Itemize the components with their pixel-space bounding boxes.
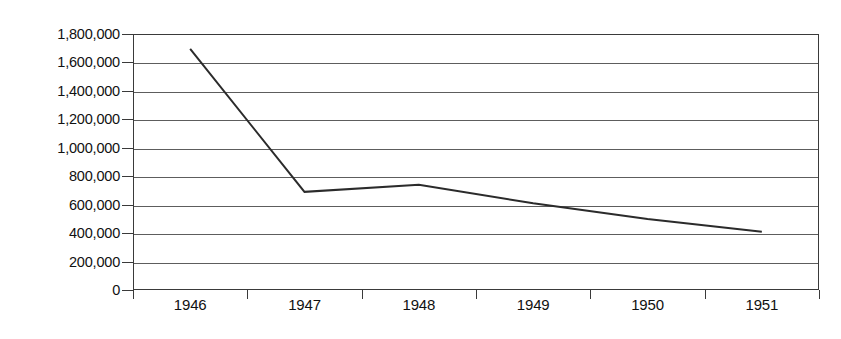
y-axis-tick-label: 600,000 [0,197,120,213]
gridline-horizontal [134,63,818,64]
y-axis-tick-label: 1,000,000 [0,140,120,156]
y-axis-tick-mark [122,176,133,177]
y-axis-tick-label: 1,600,000 [0,54,120,70]
y-axis-tick-label: 400,000 [0,225,120,241]
y-axis-tick-mark [122,290,133,291]
y-axis-tick-mark [122,148,133,149]
gridline-horizontal [134,206,818,207]
y-axis-tick-mark [122,233,133,234]
gridline-horizontal [134,263,818,264]
y-axis-tick-mark [122,205,133,206]
x-axis-tick-mark [362,290,363,299]
x-axis-tick-mark [819,290,820,299]
x-axis-tick-label: 1947 [288,296,321,313]
x-axis-tick-mark [247,290,248,299]
y-axis-tick-label: 200,000 [0,254,120,270]
y-axis-tick-label-group: 0200,000400,000600,000800,0001,000,0001,… [0,0,120,339]
line-chart: 0200,000400,000600,000800,0001,000,0001,… [0,0,841,339]
y-axis-tick-mark [122,91,133,92]
x-axis-tick-mark [476,290,477,299]
y-axis-tick-mark [122,119,133,120]
gridline-horizontal [134,177,818,178]
y-axis-tick-label: 1,400,000 [0,83,120,99]
x-axis-tick-label: 1951 [746,296,779,313]
gridline-horizontal [134,234,818,235]
x-axis-tick-label: 1949 [517,296,550,313]
x-axis-tick-label: 1950 [631,296,664,313]
x-axis-tick-mark [590,290,591,299]
x-axis-tick-mark [133,290,134,299]
y-axis-tick-label: 1,800,000 [0,26,120,42]
y-axis-tick-label: 0 [0,282,120,298]
gridline-horizontal [134,149,818,150]
y-axis-tick-mark [122,262,133,263]
y-axis-tick-mark [122,62,133,63]
x-axis-tick-label: 1948 [403,296,436,313]
y-axis-tick-mark [122,34,133,35]
y-axis-tick-label: 1,200,000 [0,111,120,127]
plot-area [133,34,819,290]
y-axis-tick-label: 800,000 [0,168,120,184]
gridline-horizontal [134,92,818,93]
x-axis-tick-mark [705,290,706,299]
gridline-horizontal [134,120,818,121]
x-axis-tick-label: 1946 [174,296,207,313]
